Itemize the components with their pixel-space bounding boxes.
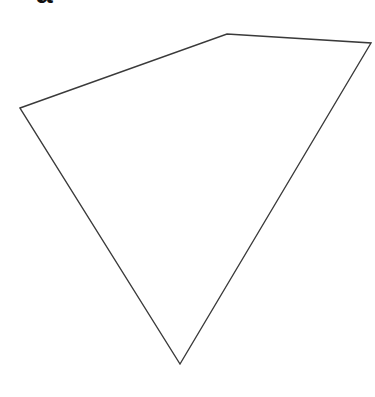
quadrilateral-shape (20, 34, 371, 364)
diagram-canvas (0, 0, 375, 397)
